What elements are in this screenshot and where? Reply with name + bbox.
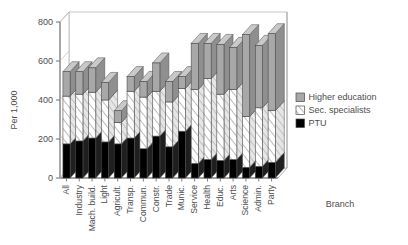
y-tick-label: 800 <box>38 17 53 27</box>
legend-item: Higher education <box>296 92 377 102</box>
bar-segment-higher-education <box>268 24 284 111</box>
x-tick-label: Agricult. <box>112 185 122 216</box>
legend-label: PTU <box>309 118 327 128</box>
x-tick-label: Educ. <box>215 185 225 207</box>
x-tick-label: Trade <box>164 185 174 207</box>
x-axis-title: Branch <box>326 199 355 209</box>
y-tick-label: 400 <box>38 95 53 105</box>
x-tick-label: All <box>61 185 71 195</box>
y-tick-label: 0 <box>48 173 53 183</box>
y-tick-label: 600 <box>38 56 53 66</box>
x-tick-label: Mach. build. <box>87 185 97 231</box>
x-tick-label: Admin. <box>253 185 263 212</box>
legend-swatch <box>296 119 305 128</box>
x-tick-label: Science <box>240 185 250 216</box>
x-tick-label: Light <box>99 184 109 203</box>
x-tick-label: Arts <box>228 185 238 200</box>
bar-column <box>268 24 284 178</box>
x-tick-label: Industry <box>74 184 84 215</box>
legend-swatch <box>296 93 305 102</box>
x-tick-label: Health <box>202 185 212 210</box>
y-axis-title: Per 1,000 <box>9 90 19 129</box>
x-tick-label: Commun. <box>138 185 148 222</box>
x-tick-label: Transp. <box>125 185 135 214</box>
legend-swatch <box>296 106 305 115</box>
x-tick-label: Munic. <box>176 185 186 210</box>
x-tick-label: Party <box>266 184 276 205</box>
legend-label: Higher education <box>309 92 377 102</box>
chart-figure: 0200400600800 AllIndustryMach. build.Lig… <box>0 0 408 245</box>
y-tick-label: 200 <box>38 134 53 144</box>
x-tick-label: Service <box>189 185 199 214</box>
stacked-bar-chart: 0200400600800 AllIndustryMach. build.Lig… <box>0 0 408 245</box>
legend-item: PTU <box>296 118 327 128</box>
x-tick-label: Constr. <box>151 185 161 212</box>
legend-label: Sec. specialists <box>309 105 372 115</box>
